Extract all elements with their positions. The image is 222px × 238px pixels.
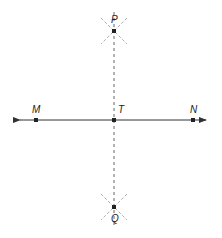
point-t xyxy=(112,118,116,122)
point-n xyxy=(191,118,195,122)
label-p: P xyxy=(111,14,118,25)
label-n: N xyxy=(190,104,198,115)
point-m xyxy=(34,118,38,122)
point-p xyxy=(112,29,116,33)
label-t: T xyxy=(118,104,125,115)
point-q xyxy=(112,205,116,209)
label-q: Q xyxy=(111,213,119,224)
bisector-diagram: M T N P Q xyxy=(0,0,222,238)
label-m: M xyxy=(32,104,41,115)
